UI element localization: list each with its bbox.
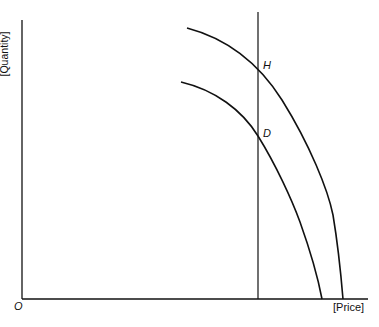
y-axis-label: [Quantity] xyxy=(0,32,10,77)
point-h-label: H xyxy=(263,59,271,71)
point-d-label: D xyxy=(263,127,271,139)
diagram-canvas xyxy=(0,0,379,327)
x-axis-label: [Price] xyxy=(333,301,364,313)
origin-label: O xyxy=(14,300,23,312)
inner-curve xyxy=(181,82,322,299)
